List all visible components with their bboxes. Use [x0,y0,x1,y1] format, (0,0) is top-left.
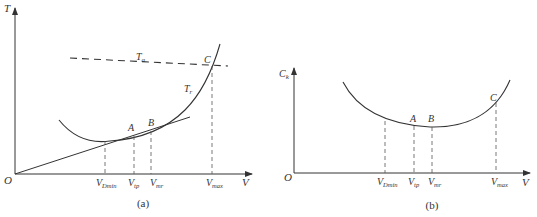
caption-a: (a) [137,197,150,210]
point-b-b: B [428,113,434,124]
ck-curve [343,80,510,127]
diagram-canvas: T O V Ta Tr A B C VDmin Vtp Vmr Vmax (a)… [0,0,537,217]
point-a: A [127,122,135,133]
t-axis-label: T [4,2,11,14]
v-axis-label-b: V [522,176,530,188]
tick-v-mr-b: Vmr [428,176,442,188]
figure-b: Ck O V A B C VDmin Vtp Vmr Vmax (b) [279,68,530,212]
tick-v-mr: Vmr [150,177,164,189]
tick-v-max: Vmax [206,177,223,189]
point-a-b: A [409,113,417,124]
point-c-b: C [490,92,497,103]
v-axis-label: V [242,176,250,188]
tick-v-max-b: Vmax [491,176,508,188]
tr-label: Tr [184,83,193,96]
tick-v-tp-b: Vtp [408,176,420,188]
tick-v-dmin-b: VDmin [377,176,398,188]
tick-v-dmin: VDmin [96,177,117,189]
ta-label: Ta [136,51,146,64]
tick-v-tp: Vtp [128,177,140,189]
point-b: B [148,117,154,128]
tangent-line [15,117,190,174]
figure-a: T O V Ta Tr A B C VDmin Vtp Vmr Vmax (a) [4,2,252,210]
origin-label: O [4,174,12,186]
ck-axis-label: Ck [279,68,290,81]
point-c: C [204,54,211,65]
origin-label-b: O [284,171,292,183]
caption-b: (b) [426,199,439,212]
